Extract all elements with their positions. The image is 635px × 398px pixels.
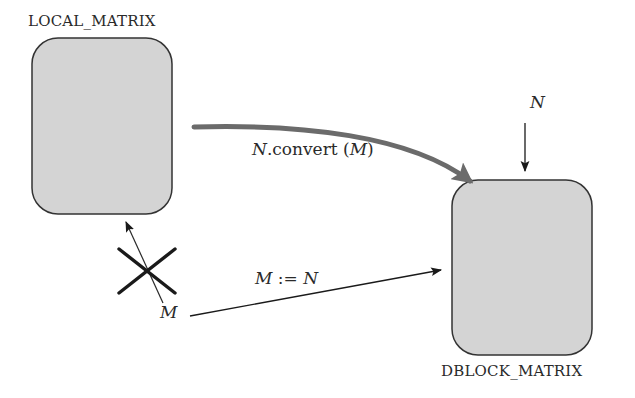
convert-label-var: N <box>252 139 267 159</box>
local-matrix-label: LOCAL_MATRIX <box>28 12 156 30</box>
assign-label-op: := <box>272 268 303 288</box>
dblock-matrix-box[interactable] <box>452 180 592 355</box>
diagram-canvas <box>0 0 635 398</box>
local-matrix-box[interactable] <box>32 38 172 214</box>
assign-label: M := N <box>255 268 318 288</box>
convert-label-arg: M <box>350 139 367 159</box>
cross-icon <box>119 249 175 293</box>
input-n-label: N <box>530 92 545 112</box>
convert-label-method: .convert ( <box>267 139 350 159</box>
m-label: M <box>160 302 177 322</box>
dblock-matrix-label: DBLOCK_MATRIX <box>441 362 582 380</box>
assign-label-lhs: M <box>255 268 272 288</box>
convert-label: N.convert (M) <box>252 139 374 159</box>
convert-label-close: ) <box>367 139 374 159</box>
assign-label-rhs: N <box>303 268 318 288</box>
